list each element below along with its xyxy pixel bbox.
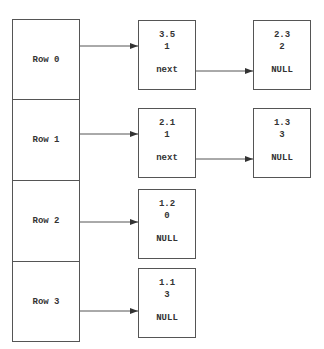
- node-pointer: NULL: [139, 313, 195, 324]
- node-value: 1.3: [254, 118, 310, 129]
- node-column: 1: [139, 130, 195, 141]
- node-column: 3: [254, 130, 310, 141]
- list-node: 2.3 2 NULL: [253, 20, 311, 90]
- node-column: 3: [139, 290, 195, 301]
- node-pointer: next: [139, 65, 195, 76]
- list-node: 1.2 0 NULL: [138, 189, 196, 259]
- node-value: 3.5: [139, 30, 195, 41]
- list-node: 3.5 1 next: [138, 20, 196, 90]
- node-value: 2.1: [139, 118, 195, 129]
- node-pointer: NULL: [254, 65, 310, 76]
- node-pointer: next: [139, 153, 195, 164]
- node-column: 0: [139, 211, 195, 222]
- node-value: 1.1: [139, 278, 195, 289]
- node-pointer: NULL: [254, 153, 310, 164]
- list-node: 1.1 3 NULL: [138, 268, 196, 338]
- node-value: 1.2: [139, 199, 195, 210]
- node-column: 1: [139, 42, 195, 53]
- list-node: 1.3 3 NULL: [253, 108, 311, 178]
- node-pointer: NULL: [139, 234, 195, 245]
- node-column: 2: [254, 42, 310, 53]
- node-value: 2.3: [254, 30, 310, 41]
- list-node: 2.1 1 next: [138, 108, 196, 178]
